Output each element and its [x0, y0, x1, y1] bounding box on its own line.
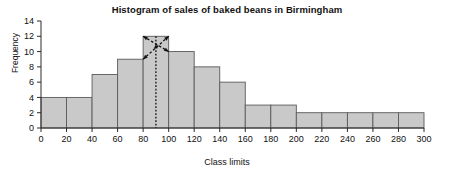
y-tick-label: 2 — [29, 108, 34, 118]
histogram-bar — [92, 75, 118, 129]
y-tick-label: 8 — [29, 62, 34, 72]
bars-group — [41, 36, 424, 128]
x-tick-label: 220 — [314, 134, 329, 144]
y-tick-label: 0 — [29, 123, 34, 133]
x-tick-label: 140 — [212, 134, 227, 144]
histogram-bar — [220, 82, 246, 128]
x-tick-label: 160 — [238, 134, 253, 144]
histogram-bar — [347, 113, 373, 128]
histogram-figure: Histogram of sales of baked beans in Bir… — [0, 0, 454, 185]
histogram-bar — [271, 105, 297, 128]
x-tick-label: 0 — [38, 134, 43, 144]
x-tick-label: 80 — [138, 134, 148, 144]
x-axis-ticks: 0204060801001201401601802002202402602803… — [38, 128, 431, 144]
y-tick-label: 10 — [24, 47, 34, 57]
histogram-bar — [296, 113, 322, 128]
histogram-bar — [67, 97, 93, 128]
x-tick-label: 40 — [87, 134, 97, 144]
plot-area: 0204060801001201401601802002202402602803… — [0, 0, 454, 185]
x-tick-label: 240 — [340, 134, 355, 144]
y-tick-label: 14 — [24, 16, 34, 26]
x-tick-label: 120 — [187, 134, 202, 144]
x-tick-label: 300 — [416, 134, 431, 144]
x-tick-label: 180 — [263, 134, 278, 144]
x-tick-label: 260 — [365, 134, 380, 144]
y-tick-label: 4 — [29, 93, 34, 103]
y-axis-ticks: 02468101214 — [24, 16, 41, 133]
histogram-bar — [41, 97, 67, 128]
histogram-bar — [118, 59, 144, 128]
x-tick-label: 20 — [62, 134, 72, 144]
x-tick-label: 60 — [113, 134, 123, 144]
histogram-bar — [194, 67, 220, 128]
histogram-bar — [245, 105, 271, 128]
x-tick-label: 100 — [161, 134, 176, 144]
x-tick-label: 280 — [391, 134, 406, 144]
histogram-bar — [373, 113, 399, 128]
histogram-bar — [322, 113, 348, 128]
y-tick-label: 12 — [24, 31, 34, 41]
x-tick-label: 200 — [289, 134, 304, 144]
histogram-bar — [398, 113, 424, 128]
histogram-bar — [169, 52, 195, 128]
y-tick-label: 6 — [29, 77, 34, 87]
